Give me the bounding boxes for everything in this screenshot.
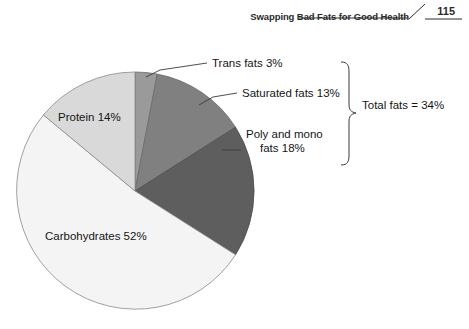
label-total-fats: Total fats = 34%	[362, 98, 444, 113]
figure-page: Swapping Bad Fats for Good Health 115 Tr…	[0, 0, 469, 329]
label-protein: Protein 14%	[58, 110, 121, 124]
label-poly-mono-fats-line1: Poly and mono	[246, 127, 323, 141]
label-carbohydrates: Carbohydrates 52%	[45, 229, 147, 243]
pie-chart-figure: Trans fats 3% Saturated fats 13% Poly an…	[0, 0, 469, 329]
pie-chart-graphic	[0, 0, 469, 329]
label-poly-mono-fats-line2: fats 18%	[260, 141, 323, 155]
label-saturated-fats: Saturated fats 13%	[242, 86, 340, 100]
label-trans-fats: Trans fats 3%	[212, 56, 283, 70]
total-fats-brace	[341, 62, 356, 165]
label-poly-mono-fats: Poly and mono fats 18%	[246, 127, 323, 156]
